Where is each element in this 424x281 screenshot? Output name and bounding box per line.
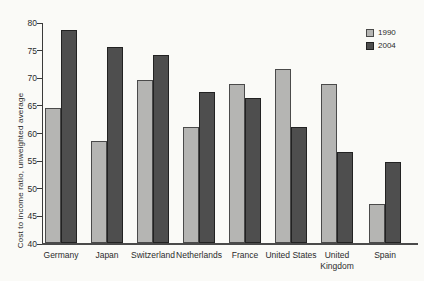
- y-tick-label: 80: [17, 19, 37, 27]
- bar-1990-france: [229, 84, 245, 243]
- bar-1990-germany: [45, 108, 61, 243]
- legend: 19902004: [366, 28, 396, 54]
- bar-1990-united-kingdom: [321, 84, 337, 243]
- bar-2004-switzerland: [153, 55, 169, 243]
- bar-1990-united-states: [275, 69, 291, 243]
- legend-swatch-2004: [366, 42, 374, 50]
- bar-2004-netherlands: [199, 92, 215, 243]
- bar-2004-united-kingdom: [337, 152, 353, 243]
- figure-cost-to-income-bar-chart: 404550556065707580 GermanyJapanSwitzerla…: [0, 0, 424, 281]
- y-tick-mark: [37, 216, 42, 217]
- x-label-spain: Spain: [358, 250, 412, 261]
- bar-1990-switzerland: [137, 80, 153, 243]
- y-axis-title: Cost to income ratio, unweighted average: [16, 91, 27, 251]
- bar-2004-germany: [61, 30, 77, 243]
- y-tick-mark: [37, 133, 42, 134]
- bar-2004-japan: [107, 47, 123, 243]
- x-label-united-kingdom: United Kingdom: [310, 250, 364, 271]
- bar-2004-france: [245, 98, 261, 243]
- y-tick-mark: [37, 78, 42, 79]
- y-tick-mark: [37, 23, 42, 24]
- legend-label-2004: 2004: [378, 41, 396, 50]
- y-tick-mark: [37, 244, 42, 245]
- y-tick-mark: [37, 50, 42, 51]
- bar-2004-spain: [385, 162, 401, 243]
- legend-item-1990: 1990: [366, 28, 396, 37]
- y-axis-line: [42, 23, 43, 244]
- bar-1990-netherlands: [183, 127, 199, 243]
- bar-1990-spain: [369, 204, 385, 243]
- plot-area: 404550556065707580 GermanyJapanSwitzerla…: [42, 23, 418, 244]
- legend-item-2004: 2004: [366, 41, 396, 50]
- legend-swatch-1990: [366, 29, 374, 37]
- y-tick-mark: [37, 161, 42, 162]
- bar-1990-japan: [91, 141, 107, 243]
- x-axis-line: [42, 243, 418, 245]
- y-tick-label: 70: [17, 74, 37, 82]
- y-tick-label: 75: [17, 47, 37, 55]
- legend-label-1990: 1990: [378, 28, 396, 37]
- y-tick-mark: [37, 188, 42, 189]
- y-tick-mark: [37, 105, 42, 106]
- bar-2004-united-states: [291, 127, 307, 243]
